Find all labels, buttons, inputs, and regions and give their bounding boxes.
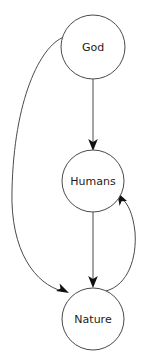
diagram-canvas: God Humans Nature <box>0 0 144 363</box>
node-humans[interactable]: Humans <box>62 150 124 212</box>
node-nature[interactable]: Nature <box>62 288 124 350</box>
diagram-svg: God Humans Nature <box>0 0 144 363</box>
edge-humans-to-nature <box>88 212 98 288</box>
edge-nature-to-humans-curve <box>106 198 135 291</box>
node-humans-circle[interactable] <box>62 150 124 212</box>
node-god[interactable]: God <box>61 15 125 79</box>
node-nature-circle[interactable] <box>62 288 124 350</box>
node-god-circle[interactable] <box>61 15 125 79</box>
edge-god-to-nature <box>12 37 69 293</box>
edge-god-to-humans <box>88 79 98 151</box>
edge-god-to-nature-curve <box>12 37 64 291</box>
edge-god-to-nature-arrowhead <box>56 283 69 293</box>
